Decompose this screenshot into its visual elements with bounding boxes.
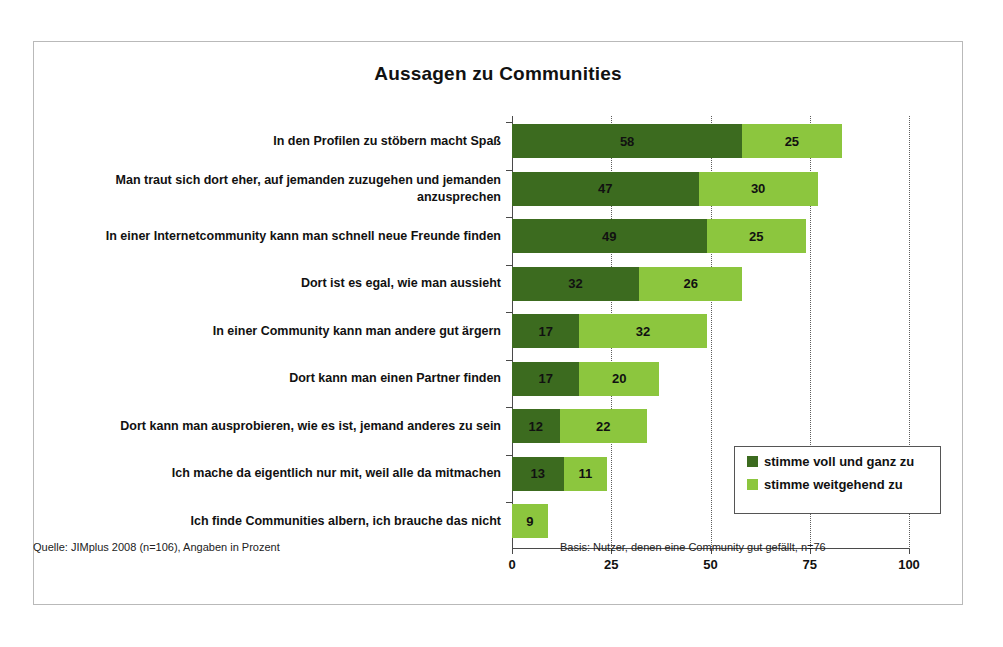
bar-value-label: 49 (602, 230, 616, 243)
bar-value-label: 17 (539, 372, 553, 385)
bar-value-label: 30 (751, 182, 765, 195)
category-label-1: Man traut sich dort eher, auf jemanden z… (80, 172, 510, 206)
bar-row[interactable]: 1720 (512, 362, 659, 396)
bar-segment-strong[interactable]: 32 (512, 267, 639, 301)
bar-segment-strong[interactable]: 47 (512, 172, 699, 206)
bar-row[interactable]: 1311 (512, 457, 607, 491)
y-tick-6 (506, 407, 512, 408)
category-label-0: In den Profilen zu stöbern macht Spaß (80, 124, 510, 158)
bar-row[interactable]: 4925 (512, 219, 806, 253)
y-tick-8 (506, 502, 512, 503)
bar-row[interactable]: 5825 (512, 124, 842, 158)
bar-segment-weak[interactable]: 25 (707, 219, 806, 253)
chart-legend: stimme voll und ganz zu stimme weitgehen… (734, 446, 941, 514)
bar-value-label: 20 (612, 372, 626, 385)
bar-value-label: 25 (785, 135, 799, 148)
bar-value-label: 25 (749, 230, 763, 243)
bar-row[interactable]: 1222 (512, 409, 647, 443)
y-tick-7 (506, 455, 512, 456)
bar-value-label: 26 (683, 277, 697, 290)
bar-row[interactable]: 9 (512, 504, 548, 538)
chart-frame: Aussagen zu Communities 5825473049253226… (33, 41, 963, 605)
bar-value-label: 47 (598, 182, 612, 195)
basis-note: Basis: Nutzer, denen eine Community gut … (560, 541, 826, 553)
x-tick-label-50: 50 (703, 557, 717, 572)
bar-value-label: 11 (579, 467, 593, 480)
bar-segment-strong[interactable]: 58 (512, 124, 742, 158)
category-label-2: In einer Internetcommunity kann man schn… (80, 219, 510, 253)
y-tick-4 (506, 312, 512, 313)
y-tick-0 (506, 122, 512, 123)
bar-row[interactable]: 1732 (512, 314, 707, 348)
bar-row[interactable]: 3226 (512, 267, 742, 301)
legend-item-weak: stimme weitgehend zu (747, 477, 940, 492)
legend-swatch-weak (747, 479, 758, 490)
category-label-6: Dort kann man ausprobieren, wie es ist, … (80, 409, 510, 443)
bar-value-label: 12 (529, 420, 543, 433)
category-label-4: In einer Community kann man andere gut ä… (80, 314, 510, 348)
bar-value-label: 13 (531, 467, 545, 480)
bar-value-label: 9 (526, 515, 533, 528)
category-label-5: Dort kann man einen Partner finden (80, 362, 510, 396)
category-label-7: Ich mache da eigentlich nur mit, weil al… (80, 457, 510, 491)
bar-segment-weak[interactable]: 25 (742, 124, 841, 158)
y-tick-3 (506, 265, 512, 266)
source-note: Quelle: JIMplus 2008 (n=106), Angaben in… (33, 541, 280, 553)
bar-segment-weak[interactable]: 9 (512, 504, 548, 538)
y-tick-2 (506, 217, 512, 218)
bar-segment-weak[interactable]: 22 (560, 409, 647, 443)
chart-title: Aussagen zu Communities (34, 63, 962, 85)
bar-segment-strong[interactable]: 17 (512, 362, 579, 396)
bar-segment-strong[interactable]: 17 (512, 314, 579, 348)
bar-value-label: 32 (636, 325, 650, 338)
legend-swatch-strong (747, 456, 758, 467)
y-tick-5 (506, 360, 512, 361)
bar-value-label: 58 (620, 135, 634, 148)
y-tick-1 (506, 170, 512, 171)
bar-value-label: 32 (568, 277, 582, 290)
bar-segment-weak[interactable]: 26 (639, 267, 742, 301)
x-tick-0 (512, 549, 513, 554)
bar-row[interactable]: 4730 (512, 172, 818, 206)
x-tick-label-100: 100 (898, 557, 920, 572)
legend-label-strong: stimme voll und ganz zu (764, 454, 914, 469)
category-label-8: Ich finde Communities albern, ich brauch… (80, 504, 510, 538)
bar-segment-strong[interactable]: 12 (512, 409, 560, 443)
x-tick-label-0: 0 (508, 557, 515, 572)
legend-item-strong: stimme voll und ganz zu (747, 454, 940, 469)
bar-segment-weak[interactable]: 11 (564, 457, 608, 491)
legend-label-weak: stimme weitgehend zu (764, 477, 903, 492)
x-tick-label-75: 75 (803, 557, 817, 572)
x-tick-label-25: 25 (604, 557, 618, 572)
bar-segment-strong[interactable]: 49 (512, 219, 707, 253)
x-tick-100 (909, 549, 910, 554)
bar-segment-weak[interactable]: 32 (579, 314, 706, 348)
bar-segment-weak[interactable]: 20 (579, 362, 658, 396)
bar-value-label: 17 (539, 325, 553, 338)
bar-segment-strong[interactable]: 13 (512, 457, 564, 491)
bar-segment-weak[interactable]: 30 (699, 172, 818, 206)
bar-value-label: 22 (596, 420, 610, 433)
category-label-3: Dort ist es egal, wie man aussieht (80, 267, 510, 301)
